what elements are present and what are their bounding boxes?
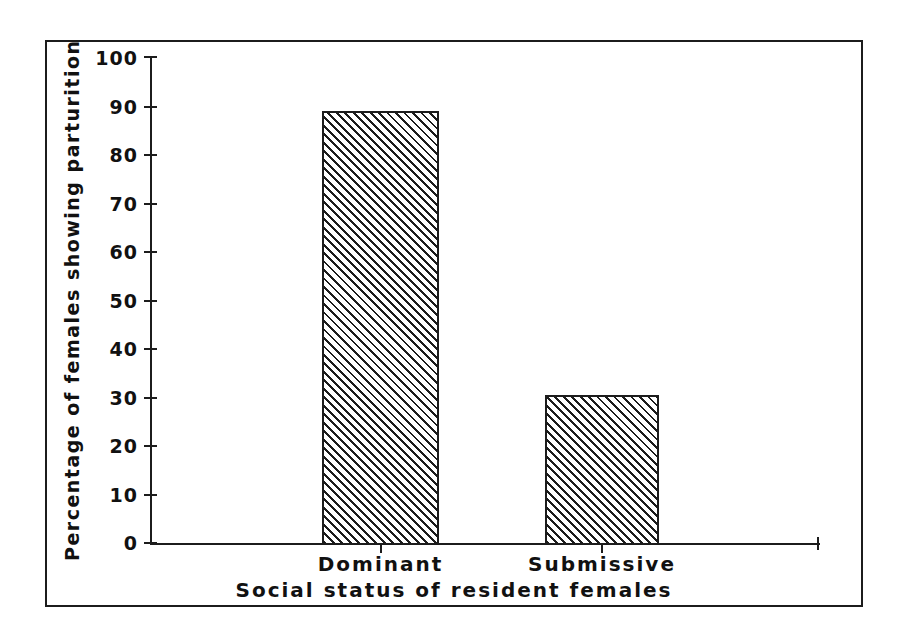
y-axis-tick-label: 20 xyxy=(78,435,138,457)
y-axis-tick xyxy=(144,154,157,156)
y-axis-tick xyxy=(144,445,157,447)
x-axis-category-submissive: Submissive xyxy=(492,552,712,576)
y-axis-tick-label: 80 xyxy=(78,144,138,166)
x-axis-category-dominant: Dominant xyxy=(271,552,491,576)
y-axis-tick xyxy=(144,494,157,496)
y-axis-tick-label: 50 xyxy=(78,290,138,312)
y-axis-tick xyxy=(144,300,157,302)
y-axis-tick xyxy=(144,397,157,399)
y-axis-tick-label: 90 xyxy=(78,96,138,118)
y-axis-tick xyxy=(144,106,157,108)
bar-submissive xyxy=(545,395,659,545)
bar-dominant xyxy=(322,111,439,545)
x-axis-title: Social status of resident females xyxy=(45,578,863,602)
x-axis-end-cap xyxy=(817,537,819,550)
y-axis-tick-label: 40 xyxy=(78,338,138,360)
figure-container: Percentage of females showing parturitio… xyxy=(0,0,904,641)
y-axis-tick-label: 60 xyxy=(78,241,138,263)
y-axis-tick-label: 30 xyxy=(78,387,138,409)
y-axis-tick xyxy=(144,203,157,205)
y-axis-tick-label: 100 xyxy=(78,47,138,69)
y-axis-tick xyxy=(144,542,157,544)
y-axis-top-cap xyxy=(144,56,157,58)
y-axis-tick-label: 0 xyxy=(78,532,138,554)
y-axis-tick-label: 70 xyxy=(78,193,138,215)
y-axis-tick xyxy=(144,348,157,350)
y-axis-tick-label: 10 xyxy=(78,484,138,506)
y-axis-tick xyxy=(144,251,157,253)
x-axis-line xyxy=(150,543,820,545)
figure-frame xyxy=(45,40,863,607)
y-axis-tick-labels: 0102030405060708090100 xyxy=(78,0,138,641)
